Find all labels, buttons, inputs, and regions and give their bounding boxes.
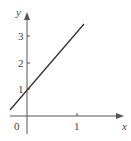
line-chart: y x 0 1 1 2 3 [0,0,131,141]
origin-label: 0 [14,120,20,132]
x-axis-label: x [121,120,127,132]
y-tick-label-2: 2 [18,57,24,69]
y-tick-label-1: 1 [18,83,24,95]
y-axis-arrow-icon [24,12,30,20]
x-axis-arrow-icon [116,113,124,119]
y-axis-label: y [15,6,21,18]
x-tick-label-1: 1 [74,120,80,132]
y-tick-label-3: 3 [18,30,24,42]
